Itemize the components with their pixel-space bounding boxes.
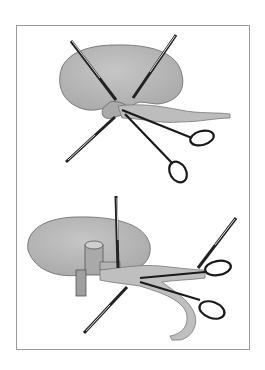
surgical-illustration — [0, 0, 265, 370]
bottom-panel — [28, 196, 236, 340]
top-panel — [60, 35, 230, 186]
retractor-lower-left — [66, 117, 115, 162]
needle-holder-vertical — [116, 196, 118, 268]
ureter — [118, 105, 230, 123]
retractor-lower-left — [84, 287, 127, 333]
